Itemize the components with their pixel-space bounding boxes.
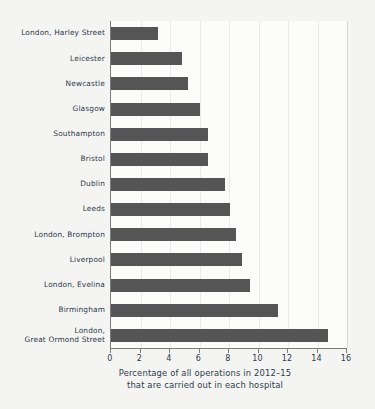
- category-label: Leicester: [0, 54, 105, 63]
- category-label: Bristol: [0, 154, 105, 163]
- caption-line-2: that are carried out in each hospital: [60, 380, 350, 392]
- x-axis-caption: Percentage of all operations in 2012–15 …: [60, 368, 350, 391]
- tick-mark: [199, 349, 200, 353]
- category-label: London, Great Ormond Street: [0, 326, 105, 345]
- category-label: Leeds: [0, 204, 105, 213]
- tick-label: 14: [311, 354, 322, 363]
- bar: [111, 203, 230, 216]
- bar: [111, 253, 242, 266]
- category-label: London, Evelina: [0, 280, 105, 289]
- tick-mark: [258, 349, 259, 353]
- tick-label: 0: [107, 354, 112, 363]
- category-label: Newcastle: [0, 79, 105, 88]
- category-axis-labels: London, Harley StreetLeicesterNewcastleG…: [0, 21, 105, 348]
- category-label: London, Brompton: [0, 230, 105, 239]
- bar-series: [111, 21, 347, 348]
- bar: [111, 279, 250, 292]
- category-label: Liverpool: [0, 255, 105, 264]
- tick-label: 16: [341, 354, 352, 363]
- caption-line-1: Percentage of all operations in 2012–15: [60, 368, 350, 380]
- tick-label: 4: [166, 354, 171, 363]
- bar: [111, 103, 200, 116]
- tick-label: 6: [196, 354, 201, 363]
- bar: [111, 77, 188, 90]
- bar: [111, 178, 225, 191]
- tick-mark: [169, 349, 170, 353]
- bar: [111, 27, 158, 40]
- tick-label: 12: [282, 354, 293, 363]
- gridline: [347, 21, 348, 348]
- tick-label: 10: [252, 354, 263, 363]
- tick-mark: [228, 349, 229, 353]
- bar: [111, 228, 236, 241]
- bar: [111, 304, 278, 317]
- category-label: Birmingham: [0, 305, 105, 314]
- category-label: London, Harley Street: [0, 28, 105, 37]
- tick-mark: [110, 349, 111, 353]
- plot-area: [110, 21, 347, 349]
- tick-mark: [346, 349, 347, 353]
- category-label: Southampton: [0, 129, 105, 138]
- tick-mark: [317, 349, 318, 353]
- tick-label: 8: [225, 354, 230, 363]
- bar: [111, 52, 182, 65]
- bar: [111, 153, 208, 166]
- bar: [111, 128, 208, 141]
- tick-mark: [140, 349, 141, 353]
- bar-chart-figure: London, Harley StreetLeicesterNewcastleG…: [0, 0, 375, 409]
- tick-label: 2: [137, 354, 142, 363]
- tick-mark: [287, 349, 288, 353]
- bar: [111, 329, 328, 342]
- x-axis-ticks: 0246810121416: [110, 349, 347, 369]
- category-label: Glasgow: [0, 104, 105, 113]
- category-label: Dublin: [0, 179, 105, 188]
